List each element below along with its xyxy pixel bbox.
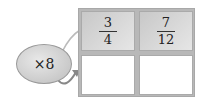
answer-cell-right[interactable] — [139, 55, 193, 95]
numerator: 3 — [104, 16, 112, 30]
cell-fraction-7-12: 7 12 — [139, 11, 193, 51]
denominator: 12 — [158, 33, 175, 47]
numerator: 7 — [162, 16, 170, 30]
denominator: 4 — [104, 33, 112, 47]
multiplier-bubble: ×8 — [16, 44, 72, 84]
fraction-grid: 3 4 7 12 — [78, 8, 195, 97]
multiplier-label: ×8 — [34, 56, 55, 72]
cell-fraction-3-4: 3 4 — [81, 11, 135, 51]
answer-cell-left[interactable] — [81, 55, 135, 95]
